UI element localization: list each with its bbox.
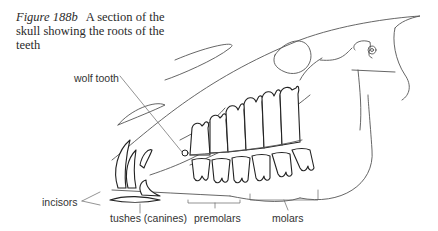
label-premolars: premolars (194, 212, 241, 224)
label-wolf-tooth: wolf tooth (74, 72, 119, 84)
label-incisors: incisors (42, 196, 78, 208)
label-molars: molars (272, 212, 304, 224)
label-tushes: tushes (canines) (110, 212, 187, 224)
